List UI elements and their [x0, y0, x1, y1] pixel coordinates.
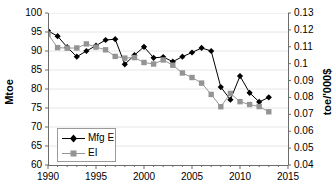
legend-label-mfg-e: Mfg E	[88, 132, 114, 143]
legend-item-mfg-e: Mfg E	[61, 131, 115, 146]
legend-label-ei: EI	[88, 147, 97, 158]
axis-layer	[0, 0, 336, 193]
legend-marker-square-icon	[61, 146, 86, 161]
legend-item-ei: EI	[61, 146, 115, 161]
chart-container: Mtoe toe/'000$ 6065707580859095100 0.040…	[0, 0, 336, 193]
legend: Mfg E EI	[57, 128, 116, 162]
legend-marker-diamond-icon	[61, 131, 86, 146]
